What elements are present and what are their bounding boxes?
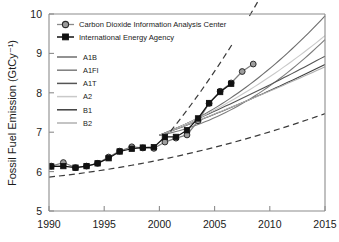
data-point-marker xyxy=(61,163,66,168)
x-tick-label-2005: 2005 xyxy=(203,218,227,230)
legend-label-A1FI: A1FI xyxy=(83,66,99,75)
scenario-curve-A1FI xyxy=(159,40,325,136)
data-point-marker xyxy=(250,61,256,67)
legend-label-iea: International Energy Agency xyxy=(79,33,174,42)
legend-label-A1T: A1T xyxy=(83,79,97,88)
data-point-marker xyxy=(173,134,178,139)
x-tick-label-2015: 2015 xyxy=(313,218,337,230)
legend-observations: Carbon Dioxide Information Analysis Cent… xyxy=(53,17,268,44)
data-point-marker xyxy=(195,116,200,121)
x-tick-label-1990: 1990 xyxy=(37,218,61,230)
y-tick-labels-group: 1098765 xyxy=(30,8,42,217)
data-point-marker xyxy=(217,89,222,94)
series-line xyxy=(51,64,253,168)
y-tick-label-8: 8 xyxy=(36,87,42,99)
y-tick-label-5: 5 xyxy=(36,205,42,217)
data-point-marker xyxy=(184,128,189,133)
legend-label-B2: B2 xyxy=(83,119,92,128)
data-point-marker xyxy=(228,81,233,86)
y-tick-label-6: 6 xyxy=(36,166,42,178)
data-point-marker xyxy=(129,146,134,151)
data-point-marker xyxy=(73,165,78,170)
observation-series-group xyxy=(48,61,256,170)
series-circle xyxy=(48,61,256,170)
y-tick-label-7: 7 xyxy=(36,126,42,138)
data-point-marker xyxy=(140,145,145,150)
data-point-marker xyxy=(84,163,89,168)
legend-marker-circle-icon xyxy=(62,21,68,27)
y-tick-label-9: 9 xyxy=(36,47,42,59)
x-tick-label-1995: 1995 xyxy=(93,218,117,230)
data-point-marker xyxy=(151,144,156,149)
y-tick-label-10: 10 xyxy=(30,8,42,20)
legend-marker-square-icon xyxy=(63,34,69,40)
scenario-curve-A2 xyxy=(159,36,325,136)
legend-label-B1: B1 xyxy=(83,106,92,115)
data-point-marker xyxy=(162,134,167,139)
data-point-marker xyxy=(239,69,245,75)
series-line xyxy=(51,84,231,168)
data-point-marker xyxy=(95,161,100,166)
data-point-marker xyxy=(117,149,122,154)
x-tick-label-2010: 2010 xyxy=(258,218,282,230)
chart-figure: 1098765 199019952000200520102015 Fossil … xyxy=(0,0,339,242)
fossil-fuel-emission-line-chart: 1098765 199019952000200520102015 Fossil … xyxy=(0,0,339,242)
y-axis-title: Fossil Fuel Emission (GtCy⁻¹) xyxy=(6,40,18,186)
legend-scenarios: A1BA1FIA1TA2B1B2 xyxy=(57,53,99,128)
legend-label-cdiac: Carbon Dioxide Information Analysis Cent… xyxy=(79,20,227,29)
legend-label-A2: A2 xyxy=(83,92,92,101)
x-tick-labels-group: 199019952000200520102015 xyxy=(37,218,337,230)
series-square xyxy=(49,81,234,170)
data-point-marker xyxy=(106,156,111,161)
legend-label-A1B: A1B xyxy=(83,53,97,62)
x-tick-label-2000: 2000 xyxy=(148,218,172,230)
scenario-curve-A1T xyxy=(159,56,325,135)
data-point-marker xyxy=(206,100,211,105)
